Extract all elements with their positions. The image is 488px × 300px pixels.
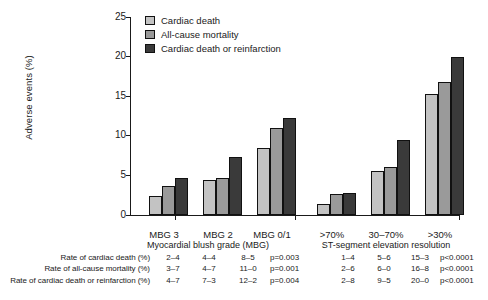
table-row-label: Rate of cardiac death (%) xyxy=(0,253,156,262)
table-cell: 4–4 xyxy=(190,253,228,262)
y-axis-tick-labels: 25 20 15 10 5 0 xyxy=(98,0,126,220)
table-cell: 3–7 xyxy=(156,264,190,273)
bar xyxy=(371,171,384,215)
x-axis-tick xyxy=(459,215,460,220)
table-cell-pvalue: p<0.0001 xyxy=(438,253,486,262)
bar xyxy=(162,186,175,215)
bar xyxy=(451,57,464,215)
bar xyxy=(384,167,397,215)
data-table: Rate of cardiac death (%) 2–4 4–4 8–5 p=… xyxy=(0,252,488,286)
bar xyxy=(317,204,330,215)
y-axis-title: Adverse events (%) xyxy=(23,18,34,178)
y-tick-label: 5 xyxy=(100,170,126,180)
table-cell-pvalue: p<0.0001 xyxy=(438,276,486,285)
table-cell: 2–4 xyxy=(156,253,190,262)
bar xyxy=(270,128,283,215)
x-axis-tick xyxy=(295,215,296,220)
table-cell-pvalue: p=0.001 xyxy=(268,264,316,273)
bars-plot xyxy=(131,17,460,215)
bar xyxy=(425,94,438,215)
table-cell: 4–7 xyxy=(156,276,190,285)
bar xyxy=(330,194,343,215)
y-tick-label: 25 xyxy=(100,12,126,22)
bar xyxy=(283,118,296,215)
table-cell-pvalue: p=0.003 xyxy=(268,253,316,262)
bar xyxy=(438,82,451,215)
bar xyxy=(149,196,162,215)
table-cell: 7–3 xyxy=(190,276,228,285)
table-row-label: Rate of cardiac death or reinfarction (%… xyxy=(0,276,156,285)
table-cell: 1–4 xyxy=(330,253,366,262)
y-tick-label: 10 xyxy=(100,130,126,140)
bar xyxy=(175,178,188,215)
table-row-label: Rate of all-cause mortality (%) xyxy=(0,264,156,273)
table-cell: 2–8 xyxy=(330,276,366,285)
chart-area: Adverse events (%) 25 20 15 10 5 0 Cardi… xyxy=(0,0,488,248)
x-axis-tick xyxy=(175,215,176,220)
table-cell: 6–0 xyxy=(366,264,402,273)
table-cell: 20–0 xyxy=(402,276,438,285)
y-tick-label: 20 xyxy=(100,51,126,61)
x-category-label: >30% xyxy=(405,229,475,240)
group-title-left: Myocardial blush grade (MBG) xyxy=(128,240,288,250)
table-cell-pvalue: p=0.004 xyxy=(268,276,316,285)
y-tick-label: 15 xyxy=(100,91,126,101)
bar xyxy=(257,148,270,215)
table-row: Rate of cardiac death or reinfarction (%… xyxy=(0,275,488,286)
y-tick-label: 0 xyxy=(100,210,126,220)
table-cell: 11–0 xyxy=(228,264,268,273)
table-cell-pvalue: p<0.0001 xyxy=(438,264,486,273)
table-cell: 8–5 xyxy=(228,253,268,262)
table-cell: 4–7 xyxy=(190,264,228,273)
bar xyxy=(203,180,216,215)
table-cell: 16–8 xyxy=(402,264,438,273)
bar xyxy=(397,140,410,215)
table-row: Rate of cardiac death (%) 2–4 4–4 8–5 p=… xyxy=(0,252,488,263)
table-cell: 2–6 xyxy=(330,264,366,273)
table-cell: 12–2 xyxy=(228,276,268,285)
table-cell: 9–5 xyxy=(366,276,402,285)
table-cell: 5–6 xyxy=(366,253,402,262)
table-row: Rate of all-cause mortality (%) 3–7 4–7 … xyxy=(0,263,488,274)
group-title-right: ST-segment elevation resolution xyxy=(296,240,476,250)
bar xyxy=(229,157,242,215)
bar xyxy=(216,178,229,215)
table-cell: 15–3 xyxy=(402,253,438,262)
bar xyxy=(343,193,356,215)
